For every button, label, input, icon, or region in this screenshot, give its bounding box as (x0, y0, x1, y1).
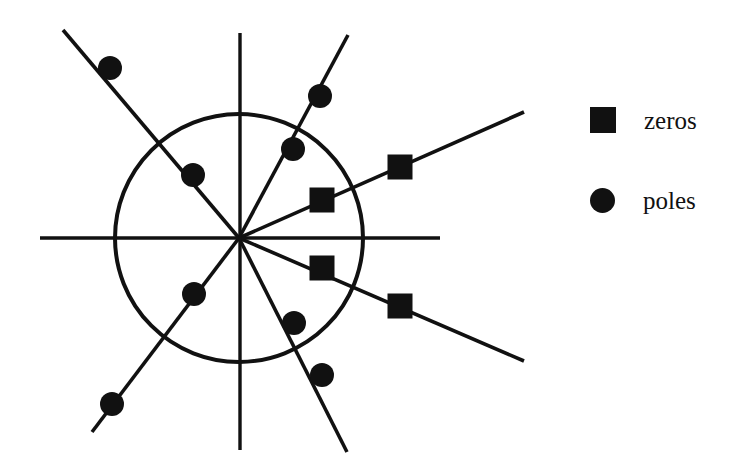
pole-marker (181, 163, 205, 187)
legend: zeros poles (590, 100, 730, 260)
pole-marker (98, 56, 122, 80)
zero-marker (388, 294, 413, 319)
zero-ray-lower-right (239, 238, 524, 361)
zero-ray-upper-right (239, 112, 524, 238)
zero-marker (310, 256, 335, 281)
legend-item-poles: poles (590, 180, 730, 220)
pole-marker (308, 84, 332, 108)
axes-group (40, 33, 440, 450)
pole-marker (100, 392, 124, 416)
ray-lines-group (63, 30, 524, 452)
square-marker-icon (590, 107, 616, 133)
pole-ray-upper-left (63, 30, 239, 238)
pole-marker (281, 137, 305, 161)
legend-item-zeros: zeros (590, 100, 730, 140)
legend-label-zeros: zeros (644, 108, 697, 133)
pole-marker (282, 311, 306, 335)
zero-marker (310, 188, 335, 213)
pole-marker (310, 363, 334, 387)
zero-marker (388, 155, 413, 180)
circle-marker-icon (590, 188, 615, 213)
pole-marker (182, 282, 206, 306)
pole-zero-figure: zeros poles (0, 0, 732, 464)
poles-markers-group (98, 56, 334, 416)
legend-label-poles: poles (643, 188, 696, 213)
